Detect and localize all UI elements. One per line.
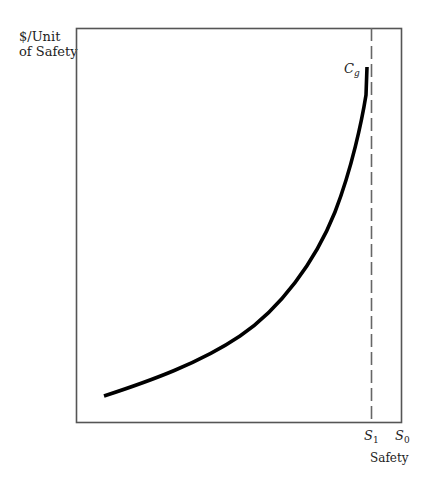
curve-label-cg: Cg: [344, 61, 360, 78]
cg-curve: [104, 67, 367, 396]
x-tick-s0: S0: [395, 428, 410, 445]
plot-frame: [77, 29, 402, 423]
curve-label-sub: g: [354, 68, 360, 78]
curve-label-main: C: [344, 61, 354, 76]
x-tick-s1: S1: [364, 428, 379, 445]
chart-plot: [0, 0, 426, 479]
x-tick-s1-main: S: [364, 428, 373, 443]
x-tick-s0-main: S: [395, 428, 404, 443]
x-axis-label: Safety: [370, 451, 409, 465]
x-tick-s1-sub: 1: [373, 435, 379, 445]
x-tick-s0-sub: 0: [404, 435, 410, 445]
